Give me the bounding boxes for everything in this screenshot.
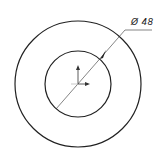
dimension-arrowhead-icon — [100, 50, 106, 59]
x-axis-arrowhead-icon — [85, 82, 90, 86]
dimension-leader-line — [56, 30, 125, 109]
y-axis-arrowhead-icon — [76, 65, 80, 70]
diameter-dimension[interactable] — [56, 30, 152, 109]
coordinate-axis-indicator — [71, 65, 90, 86]
diameter-label[interactable]: Ø 48 — [131, 17, 154, 27]
